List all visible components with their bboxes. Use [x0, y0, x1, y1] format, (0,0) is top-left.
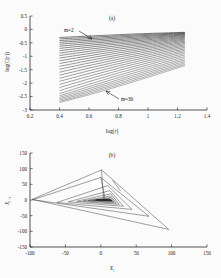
annotation-m-high-arrow — [106, 91, 119, 99]
panel-b-ytick-label: -150 — [18, 244, 28, 250]
panel-a-xtick-label: 0.2 — [27, 113, 34, 119]
panel-a-svg: 0.20.40.60.811.21.40.50-0.5-1-1.5-2-2.5-… — [0, 0, 221, 139]
panel-a-curves — [60, 32, 185, 102]
panel-a-yaxis-title: log(C(r)) — [4, 52, 11, 72]
panel-a-xtick-label: 1.2 — [174, 113, 181, 119]
panel-a-ytick-label: 0.5 — [21, 13, 28, 19]
panel-b-xaxis-title: Xi — [109, 265, 114, 273]
panel-a-xaxis-title: log(r) — [106, 128, 119, 135]
panel-a-curve — [60, 58, 185, 96]
panel-a-correlation-integral: 0.20.40.60.811.21.40.50-0.5-1-1.5-2-2.5-… — [0, 0, 221, 139]
panel-a-ytick-label: -1 — [23, 53, 28, 59]
annotation-m-high-arrowhead — [106, 91, 110, 95]
annotation-m-high-label: m=30 — [121, 96, 134, 102]
panel-b-svg: -100-50050100150150100500-50-100-150 (b)… — [0, 139, 221, 278]
panel-b-xtick-label: 50 — [134, 250, 140, 256]
panel-a-xaxis-title-main: log( — [106, 128, 115, 135]
panel-b-label: (b) — [109, 152, 116, 159]
panel-a-xtick-label: 0.4 — [56, 113, 63, 119]
panel-a-curve — [60, 47, 185, 75]
panel-a-ytick-label: -2.5 — [19, 93, 28, 99]
panel-b-axis-frame — [30, 153, 207, 247]
panel-b-xtick-label: 0 — [100, 250, 103, 256]
panel-a-axes: 0.20.40.60.811.21.40.50-0.5-1-1.5-2-2.5-… — [19, 13, 211, 119]
panel-a-curve — [60, 63, 185, 100]
panel-a-xtick-label: 0.8 — [115, 113, 122, 119]
panel-b-yaxis-title: Xi+τ — [4, 196, 12, 206]
panel-a-curve — [60, 57, 185, 94]
panel-b-ytick-label: 0 — [24, 197, 27, 203]
panel-b-ytick-label: 50 — [22, 181, 28, 187]
panel-b-orbit — [33, 177, 149, 216]
panel-b-ytick-label: 100 — [19, 166, 27, 172]
panel-b-ytick-label: 150 — [19, 150, 27, 156]
panel-a-ytick-label: -1.5 — [19, 67, 28, 73]
panel-b-xtick-label: 150 — [203, 250, 211, 256]
panel-b-yaxis-title-sub: i+τ — [8, 196, 12, 201]
panel-a-curve — [60, 46, 185, 72]
panel-a-ytick-label: -2 — [23, 80, 28, 86]
panel-a-ytick-label: -3 — [23, 107, 28, 113]
panel-b-orbits — [32, 170, 169, 230]
panel-b-ytick-label: -100 — [18, 228, 28, 234]
panel-a-label: (a) — [109, 15, 115, 22]
panel-a-xtick-label: 1 — [147, 113, 150, 119]
panel-b-phase-attractor: -100-50050100150150100500-50-100-150 (b)… — [0, 139, 221, 278]
panel-b-xaxis-title-sub: i — [113, 269, 114, 273]
panel-b-ytick-label: -50 — [20, 213, 27, 219]
figure-container: 0.20.40.60.811.21.40.50-0.5-1-1.5-2-2.5-… — [0, 0, 221, 278]
panel-a-xaxis-title-close: ) — [117, 128, 119, 135]
panel-a-ytick-label: 0 — [24, 26, 27, 32]
panel-b-xtick-label: -100 — [25, 250, 35, 256]
panel-b-connector — [102, 170, 104, 199]
panel-b-xtick-label: 100 — [168, 250, 176, 256]
annotation-m-low-label: m=2 — [64, 27, 74, 33]
panel-a-xtick-label: 1.4 — [204, 113, 211, 119]
panel-b-xtick-label: -50 — [62, 250, 69, 256]
panel-a-ytick-label: -0.5 — [19, 40, 28, 46]
panel-a-xtick-label: 0.6 — [86, 113, 93, 119]
